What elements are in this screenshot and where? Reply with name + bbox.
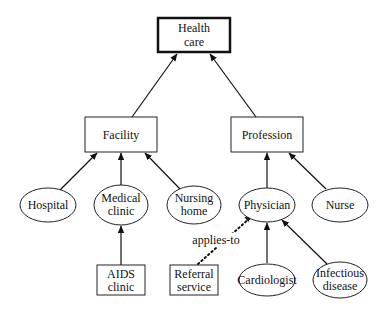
node-aids-clinic: AIDS clinic	[97, 265, 145, 295]
edge-profession-to-health-care	[210, 54, 256, 117]
edge-hospital-to-facility	[60, 153, 97, 190]
node-hospital: Hospital	[20, 188, 76, 222]
node-label-line: Nursing	[175, 191, 214, 205]
node-physician: Physician	[239, 188, 295, 222]
node-label-line: Infectious	[316, 266, 364, 280]
node-label-line: clinic	[108, 204, 135, 218]
node-health-care: Health care	[158, 18, 230, 52]
node-label-line: home	[181, 204, 208, 218]
node-label-line: Cardiologist	[237, 273, 297, 287]
node-label-line: disease	[323, 279, 358, 293]
node-label-line: service	[177, 280, 211, 294]
node-nursing-home: Nursing home	[167, 186, 221, 224]
node-label-line: Nurse	[326, 198, 355, 212]
edge-nurse-to-profession	[289, 153, 326, 189]
node-label-line: AIDS	[107, 267, 135, 281]
node-label-line: Referral	[174, 267, 214, 281]
edge-facility-to-health-care	[132, 54, 177, 117]
node-label-line: care	[184, 35, 204, 49]
edge-label-applies-to: applies-to	[192, 233, 239, 247]
node-infectious-disease: Infectious disease	[313, 262, 367, 298]
node-label-line: Physician	[244, 198, 291, 212]
edge-nursing-home-to-facility	[145, 153, 180, 189]
node-referral-service: Referral service	[170, 265, 218, 295]
node-nurse: Nurse	[312, 188, 368, 222]
node-label-line: Facility	[103, 128, 140, 142]
node-label-line: Medical	[101, 191, 141, 205]
node-label-line: clinic	[108, 280, 135, 294]
node-label-line: Profession	[242, 128, 293, 142]
node-label-line: Health	[178, 21, 210, 35]
node-label-line: Hospital	[28, 198, 69, 212]
node-cardiologist: Cardiologist	[237, 264, 297, 296]
health-care-concept-diagram: applies-to Health care Facility Professi…	[0, 0, 390, 309]
node-profession: Profession	[231, 117, 303, 152]
edge-infectious-disease-to-physician	[282, 220, 327, 264]
node-medical-clinic: Medical clinic	[94, 185, 148, 225]
node-facility: Facility	[85, 117, 157, 152]
